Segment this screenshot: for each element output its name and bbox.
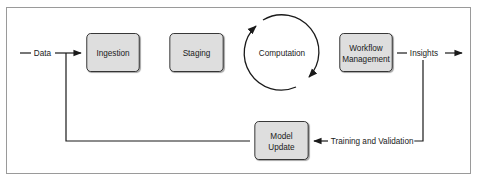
model-update-box: Model Update: [254, 121, 308, 160]
workflow-label-line2: Management: [342, 53, 390, 64]
training-validation-label: Training and Validation: [330, 135, 414, 147]
staging-stage-box: Staging: [169, 33, 223, 72]
staging-label: Staging: [183, 47, 211, 58]
insights-to-training-line: [414, 60, 423, 141]
workflow-management-box: Workflow Management: [339, 33, 392, 72]
ingestion-label: Ingestion: [96, 47, 129, 58]
cycle-arc-right-icon: [263, 15, 319, 77]
ingestion-stage-box: Ingestion: [86, 33, 139, 72]
data-input-label: Data: [33, 47, 52, 59]
model-label-line1: Model: [270, 130, 292, 141]
computation-label: Computation: [259, 47, 305, 59]
connector-lines: [0, 0, 479, 182]
insights-output-label: Insights: [409, 47, 439, 59]
workflow-label-line1: Workflow: [349, 42, 382, 53]
model-label-line2: Update: [268, 141, 294, 152]
